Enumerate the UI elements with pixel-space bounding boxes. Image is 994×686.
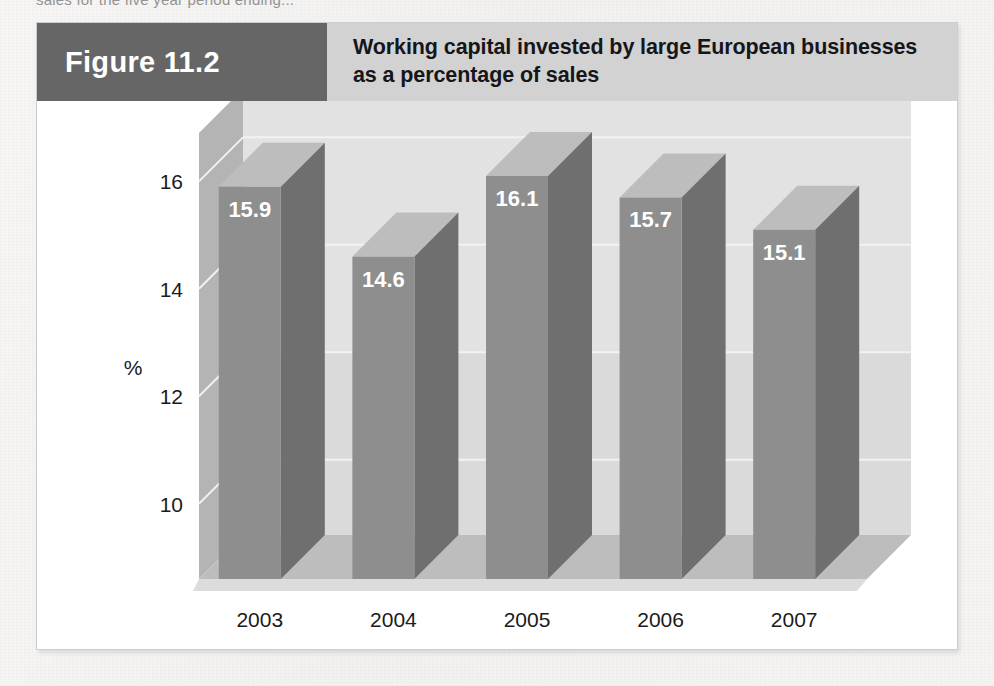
x-tick-label-2004: 2004 [370,608,417,631]
figure-title-block: Working capital invested by large Europe… [327,23,957,101]
x-tick-label-2003: 2003 [236,608,283,631]
bar-side-face-2005 [548,132,592,579]
x-axis-title: Year [506,646,548,649]
figure-header-banner: Figure 11.2 Working capital invested by … [37,23,957,101]
figure-number-block: Figure 11.2 [37,23,327,101]
bar-front-face-2005 [486,176,548,579]
bar-front-face-2003 [219,187,281,579]
figure-title-line-2: as a percentage of sales [353,62,941,90]
y-tick-label-14: 14 [160,278,184,301]
bar-side-face-2006 [682,153,726,579]
bar-side-face-2003 [281,143,325,579]
bar-value-label-2006: 15.7 [629,207,672,232]
bar-value-label-2005: 16.1 [496,186,539,211]
y-axis-title: % [124,356,143,379]
bar-front-face-2006 [620,197,682,579]
y-tick-label-10: 10 [160,493,183,516]
bar-chart-3d: 15.9200314.6200416.1200515.7200615.12007… [37,101,957,649]
bar-front-face-2004 [352,257,414,579]
chart-plot-area: 15.9200314.6200416.1200515.7200615.12007… [37,101,957,649]
figure-frame: Figure 11.2 Working capital invested by … [36,22,958,650]
bar-side-face-2007 [815,186,859,579]
bar-value-label-2007: 15.1 [763,240,806,265]
x-tick-label-2005: 2005 [504,608,551,631]
figure-title-line-1: Working capital invested by large Europe… [353,34,941,62]
y-tick-label-16: 16 [160,170,183,193]
cut-off-body-text: sales for the five year period ending... [36,0,736,13]
x-tick-label-2006: 2006 [637,608,684,631]
bar-front-face-2007 [753,230,815,579]
bar-side-face-2004 [414,213,458,579]
x-tick-label-2007: 2007 [771,608,818,631]
bar-value-label-2003: 15.9 [228,197,271,222]
plot-floor-lip [193,579,867,591]
y-tick-label-12: 12 [160,385,183,408]
bar-value-label-2004: 14.6 [362,267,405,292]
figure-number-label: Figure 11.2 [65,46,220,79]
